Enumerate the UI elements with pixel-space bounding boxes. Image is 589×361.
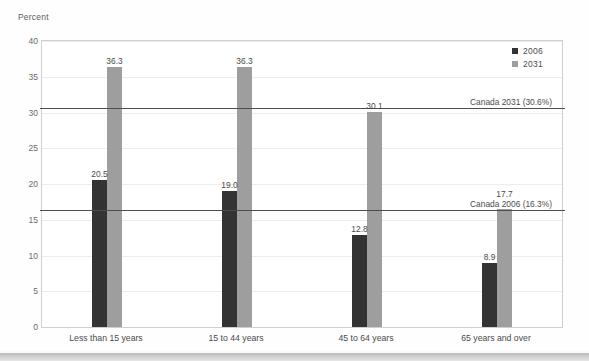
plot-area: 20.536.319.036.312.830.18.917.7Canada 20…: [41, 40, 563, 328]
legend-label: 2006: [523, 46, 543, 56]
y-axis-tick-layer: 0510152025303540: [0, 40, 38, 328]
bar-value-label: 36.3: [99, 56, 131, 66]
y-axis-tick-label: 30: [4, 108, 38, 118]
legend-label: 2031: [523, 59, 543, 69]
chart-figure: Percent 0510152025303540 20.536.319.036.…: [0, 0, 589, 361]
y-axis-tick-label: 40: [4, 36, 38, 46]
legend-swatch-icon: [512, 61, 518, 67]
bar-value-label: 20.5: [84, 169, 116, 179]
bar: [222, 191, 237, 327]
bar: [107, 67, 122, 327]
y-axis-title: Percent: [18, 12, 49, 22]
y-axis-tick-label: 35: [4, 72, 38, 82]
bar-value-label: 17.7: [489, 189, 521, 199]
y-axis-tick-label: 0: [4, 322, 38, 332]
bar-value-label: 12.8: [344, 224, 376, 234]
bar: [352, 235, 367, 327]
x-axis-category-label: 45 to 64 years: [338, 333, 393, 343]
bar: [92, 180, 107, 327]
x-axis-category-label: 65 years and over: [461, 333, 531, 343]
scan-artifact-edge: [0, 351, 589, 353]
bar: [497, 200, 512, 327]
bar-value-label: 36.3: [229, 56, 261, 66]
y-axis-tick-label: 15: [4, 215, 38, 225]
scan-artifact-band: [0, 351, 589, 361]
bar-value-label: 30.1: [359, 101, 391, 111]
reference-line: [40, 210, 565, 211]
reference-line-label: Canada 2031 (30.6%): [468, 97, 554, 107]
x-axis-category-label: 15 to 44 years: [208, 333, 263, 343]
legend-item[interactable]: 2031: [512, 58, 543, 69]
reference-line: [40, 108, 565, 109]
x-axis-category-label: Less than 15 years: [69, 333, 142, 343]
legend-swatch-icon: [512, 48, 518, 54]
gridline: [42, 41, 562, 42]
y-axis-tick-label: 20: [4, 179, 38, 189]
y-axis-tick-label: 25: [4, 143, 38, 153]
bar-value-label: 19.0: [214, 180, 246, 190]
legend-item[interactable]: 2006: [512, 45, 543, 56]
x-axis-category-labels: Less than 15 years15 to 44 years45 to 64…: [41, 331, 563, 351]
y-axis-tick-label: 5: [4, 286, 38, 296]
y-axis-tick-label: 10: [4, 251, 38, 261]
bar: [237, 67, 252, 327]
reference-line-label: Canada 2006 (16.3%): [468, 199, 554, 209]
bar-value-label: 8.9: [474, 252, 506, 262]
bar: [482, 263, 497, 327]
chart-legend: 20062031: [512, 45, 543, 71]
bar: [367, 112, 382, 327]
